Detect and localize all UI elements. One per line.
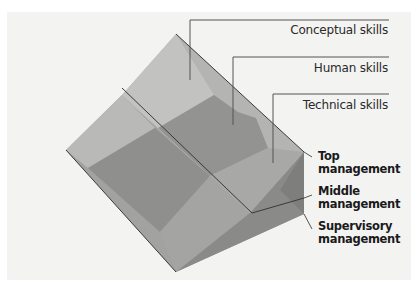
middle-management-line2: management [318, 198, 400, 211]
middle-management-label: Middle management [318, 185, 400, 211]
supervisory-level-leader [304, 214, 312, 229]
top-management-label: Top management [318, 150, 400, 176]
technical-skills-label: Technical skills [228, 98, 388, 112]
supervisory-management-label: Supervisory management [318, 220, 400, 246]
top-level-leader [304, 152, 312, 157]
supervisory-management-line2: management [318, 233, 400, 246]
human-skills-label: Human skills [228, 61, 388, 75]
middle-level-leader [304, 195, 312, 198]
top-management-line2: management [318, 163, 400, 176]
conceptual-skills-label: Conceptual skills [228, 23, 388, 37]
